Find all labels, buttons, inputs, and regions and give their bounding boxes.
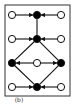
edge-r2-mid-to-r3-left	[15, 41, 34, 60]
edge-r3-right-to-r4-mid	[40, 66, 59, 85]
edge-layer	[15, 15, 59, 87]
open-node-r2-right	[57, 35, 64, 42]
edge-r3-left-to-r4-mid	[15, 65, 34, 84]
filled-node-r2-mid	[33, 35, 40, 42]
open-node-r4-left	[8, 83, 15, 90]
open-node-r4-right	[57, 83, 64, 90]
edge-r2-mid-to-r3-right	[40, 42, 59, 61]
filled-node-r1-mid	[33, 11, 40, 18]
filled-node-r3-left	[8, 59, 15, 66]
graph-diagram	[0, 0, 73, 104]
open-node-r1-right	[57, 11, 64, 18]
filled-node-r4-mid	[33, 83, 40, 90]
filled-node-r3-right	[57, 59, 64, 66]
open-node-r3-mid	[33, 59, 40, 66]
open-node-r1-left	[8, 11, 15, 18]
diagram-caption: (b)	[14, 96, 24, 104]
open-node-r2-left	[8, 35, 15, 42]
